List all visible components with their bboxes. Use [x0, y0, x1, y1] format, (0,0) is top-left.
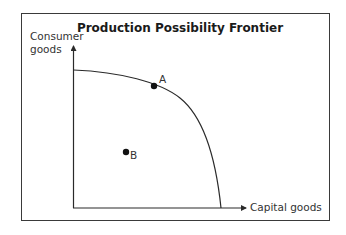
- ppf-curve: [74, 70, 222, 208]
- ppf-plot: [0, 0, 346, 235]
- x-axis-label: Capital goods: [250, 201, 322, 213]
- point-b-marker: [123, 149, 129, 155]
- point-a-marker: [151, 83, 157, 89]
- point-a-label: A: [159, 73, 166, 85]
- point-b-label: B: [130, 149, 137, 161]
